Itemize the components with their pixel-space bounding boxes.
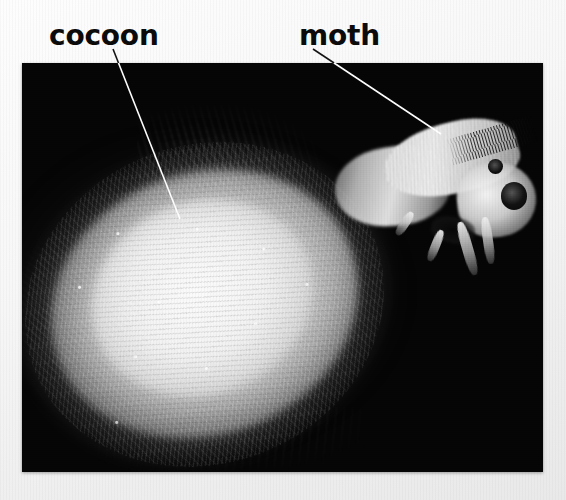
moth-leg [454,221,480,277]
cocoon-wisp-left [22,218,147,406]
cocoon-fiber-halo [22,92,435,472]
photo-scene [22,63,543,472]
moth-compound-eye [501,182,527,209]
backdrop-glow [22,128,408,455]
cocoon-highlight-speckles [22,101,419,472]
moth-wing-fringe [446,116,538,167]
moth-thorax [330,139,454,233]
moth-head [453,159,539,241]
moth-leg [480,217,496,265]
cocoon-silk-strands [22,90,432,472]
label-moth: moth [299,22,380,50]
cocoon-wisp-bottom [95,407,366,472]
cocoon-silk-body [22,126,397,472]
moth-mouthparts [429,213,477,247]
figure-page: cocoon moth [0,0,566,500]
moth-leg [425,229,446,263]
moth-secondary-eye-spot [488,159,503,175]
label-cocoon: cocoon [49,22,159,50]
photo-grain-overlay [22,63,543,472]
moth-leg [393,209,416,237]
moth-folded-wing [376,108,525,209]
photograph [22,63,543,472]
emerging-moth [335,96,543,292]
cocoon-wisp-top [137,104,325,194]
cocoon-bright-core [63,168,341,428]
